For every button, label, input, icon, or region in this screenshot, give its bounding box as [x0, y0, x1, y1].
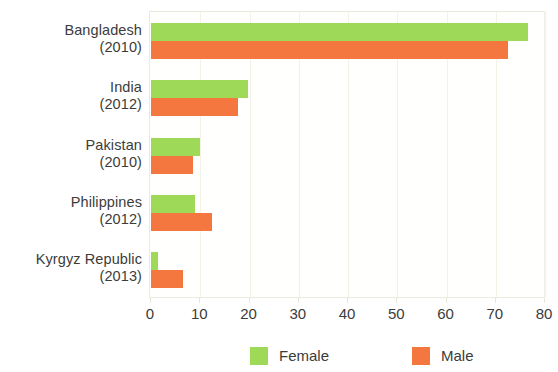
x-axis-tick-label: 10	[191, 304, 208, 324]
category-name: Pakistan	[86, 137, 142, 153]
category-year: (2010)	[0, 154, 142, 171]
bar-female-india	[151, 80, 248, 98]
legend-item-male[interactable]: Male	[412, 344, 474, 368]
y-axis-label-philippines: Philippines(2012)	[0, 194, 142, 228]
bar-male-philippines	[151, 213, 212, 231]
category-year: (2010)	[0, 39, 142, 56]
bar-female-bangladesh	[151, 23, 528, 41]
x-axis-tick	[544, 298, 545, 303]
x-axis-tick	[396, 298, 397, 303]
legend-label-female: Female	[279, 347, 329, 365]
x-axis-tick-label: 30	[289, 304, 306, 324]
legend-swatch-male-icon	[412, 347, 430, 365]
x-axis-tick	[347, 298, 348, 303]
bar-female-philippines	[151, 195, 195, 213]
bar-male-pakistan	[151, 156, 193, 174]
y-axis-category-labels: Bangladesh(2010)India(2012)Pakistan(2010…	[0, 11, 142, 298]
legend-item-female[interactable]: Female	[250, 344, 329, 368]
x-axis-tick	[199, 298, 200, 303]
bar-female-kyrgyz-republic	[151, 252, 158, 270]
category-year: (2012)	[0, 96, 142, 113]
bar-female-pakistan	[151, 138, 200, 156]
y-axis-label-pakistan: Pakistan(2010)	[0, 137, 142, 171]
y-axis-label-bangladesh: Bangladesh(2010)	[0, 22, 142, 56]
x-axis-tick-label: 0	[146, 304, 154, 324]
category-year: (2012)	[0, 211, 142, 228]
legend-label-male: Male	[441, 347, 474, 365]
x-axis-tick	[249, 298, 250, 303]
y-axis-label-india: India(2012)	[0, 79, 142, 113]
legend-swatch-female-icon	[250, 347, 268, 365]
plot-area	[149, 11, 545, 298]
category-name: Bangladesh	[64, 22, 142, 38]
chart-legend: Female Male	[0, 344, 558, 370]
x-axis-tick-labels: 01020304050607080	[0, 304, 558, 328]
y-axis-label-kyrgyz-republic: Kyrgyz Republic(2013)	[0, 251, 142, 285]
x-axis-tick-label: 60	[437, 304, 454, 324]
x-axis-tick	[495, 298, 496, 303]
gridline	[545, 12, 546, 297]
x-axis-tick-label: 20	[240, 304, 257, 324]
x-axis-tick-label: 70	[486, 304, 503, 324]
bar-male-bangladesh	[151, 41, 508, 59]
x-axis-tick	[150, 298, 151, 303]
x-axis-tick	[298, 298, 299, 303]
category-name: India	[110, 79, 142, 95]
x-axis-tick-label: 80	[536, 304, 553, 324]
category-year: (2013)	[0, 268, 142, 285]
x-axis-tick-label: 40	[339, 304, 356, 324]
x-axis-tick-label: 50	[388, 304, 405, 324]
x-axis-tick	[446, 298, 447, 303]
bar-male-india	[151, 98, 238, 116]
bar-male-kyrgyz-republic	[151, 270, 183, 288]
bar-chart: Bangladesh(2010)India(2012)Pakistan(2010…	[0, 0, 558, 372]
category-name: Philippines	[71, 194, 142, 210]
category-name: Kyrgyz Republic	[36, 251, 142, 267]
